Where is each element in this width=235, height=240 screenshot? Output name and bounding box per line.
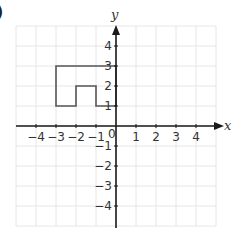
x-tick-label: −3 bbox=[47, 130, 65, 144]
y-tick-label: 1 bbox=[104, 99, 112, 113]
x-axis-arrow-icon bbox=[214, 122, 224, 130]
x-tick-label: 2 bbox=[152, 130, 160, 144]
origin-label: 0 bbox=[108, 127, 116, 141]
x-tick-label: −4 bbox=[27, 130, 45, 144]
y-tick-label: −2 bbox=[94, 159, 112, 173]
x-tick-label: −2 bbox=[67, 130, 85, 144]
x-tick-label: 3 bbox=[172, 130, 180, 144]
y-tick-label: −1 bbox=[94, 139, 112, 153]
y-axis-label: y bbox=[110, 7, 119, 22]
x-tick-label: 4 bbox=[192, 130, 200, 144]
y-tick-label: 4 bbox=[104, 39, 112, 53]
y-tick-label: 2 bbox=[104, 79, 112, 93]
x-axis-label: x bbox=[224, 118, 232, 133]
x-tick-label: 1 bbox=[132, 130, 140, 144]
axes bbox=[16, 25, 224, 228]
y-tick-label: −3 bbox=[94, 179, 112, 193]
y-tick-label: 3 bbox=[104, 59, 112, 73]
coordinate-plane: −4−3−2−112344321−1−2−3−4 x y 0 bbox=[0, 0, 235, 240]
y-tick-label: −4 bbox=[94, 199, 112, 213]
